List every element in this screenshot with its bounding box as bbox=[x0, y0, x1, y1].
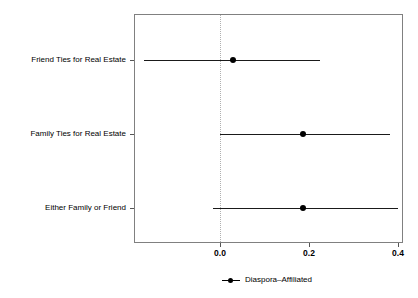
x-axis-tick-label-0-4: 0.4 bbox=[378, 248, 418, 258]
point-estimate-family-ties bbox=[300, 131, 306, 137]
x-tick-0-4 bbox=[398, 243, 399, 247]
x-tick-0-2 bbox=[309, 243, 310, 247]
x-axis-tick-label-0-2: 0.2 bbox=[289, 248, 329, 258]
coefficient-plot-figure: Friend Ties for Real Estate Family Ties … bbox=[0, 0, 418, 298]
point-estimate-either-family-or-friend bbox=[300, 205, 306, 211]
x-axis-tick-label-0-0: 0.0 bbox=[200, 248, 240, 258]
y-axis-label-family-ties: Family Ties for Real Estate bbox=[0, 129, 126, 139]
x-tick-0-0 bbox=[220, 243, 221, 247]
y-axis-label-either-family-or-friend: Either Family or Friend bbox=[0, 203, 126, 213]
y-tick-friend-ties bbox=[130, 60, 134, 61]
legend-marker-point-icon bbox=[228, 278, 233, 283]
legend-label-diaspora-affiliated: Diaspora–Affiliated bbox=[245, 275, 312, 285]
y-axis-label-friend-ties: Friend Ties for Real Estate bbox=[0, 55, 126, 65]
y-tick-either bbox=[130, 208, 134, 209]
point-estimate-friend-ties bbox=[230, 57, 236, 63]
y-tick-family-ties bbox=[130, 134, 134, 135]
